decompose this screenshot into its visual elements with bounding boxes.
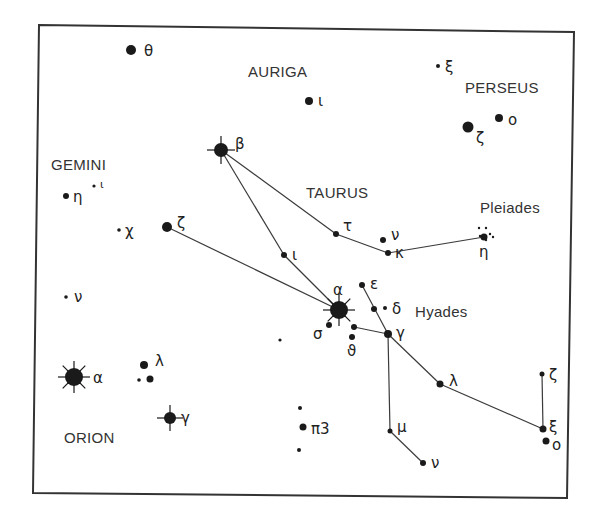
- star-dot-icon: [65, 368, 83, 386]
- star-label: ε: [370, 275, 378, 293]
- star-dot-icon: [388, 429, 393, 434]
- star-label: χ: [125, 222, 134, 240]
- constellation-label-perseus: PERSEUS: [465, 79, 539, 96]
- star-dot-icon: [137, 378, 141, 382]
- star-label: η: [73, 188, 83, 206]
- star-dot-icon: [330, 301, 348, 319]
- star-tau-sigma: σ: [313, 322, 332, 343]
- star-label: η: [479, 243, 489, 261]
- star-tau-gamma: γ: [384, 324, 405, 342]
- star-per-zeta: ζ: [463, 122, 485, 148]
- star-label: β: [235, 135, 245, 153]
- star-ori-pi-lower: [297, 448, 301, 452]
- star-dot-icon: [540, 372, 545, 377]
- star-label: θ: [144, 42, 153, 60]
- star-tau-tau: τ: [333, 217, 352, 237]
- constellation-line: [167, 227, 339, 310]
- star-tau-nu2: ν: [420, 454, 439, 472]
- star-ori-pi-upper: [298, 406, 302, 410]
- star-dot-icon: [436, 64, 440, 68]
- star-gem-theta: θ: [126, 42, 153, 60]
- star-dot-icon: [164, 412, 176, 424]
- star-dot-icon: [117, 228, 121, 232]
- star-label: κ: [395, 244, 404, 262]
- star-label: ι: [318, 92, 323, 110]
- star-label: ν: [431, 454, 439, 472]
- constellation-label-gemini: GEMINI: [51, 156, 106, 173]
- stars: θηιχζνβιξζoαιτνκηεδγσϑλμνζξoπ3αλγ: [58, 42, 561, 472]
- constellation-line: [336, 234, 388, 253]
- star-dot-icon: [64, 295, 68, 299]
- star-tau-kappa: κ: [385, 244, 404, 262]
- star-dot-icon: [300, 424, 307, 431]
- star-dot-icon: [63, 193, 69, 199]
- star-dot-icon: [437, 381, 444, 388]
- star-tau-delta1: [371, 306, 377, 312]
- star-label: τ: [343, 217, 352, 235]
- star-label: γ: [396, 324, 405, 342]
- star-ori-pi3: π3: [300, 420, 330, 438]
- star-ori-phi1: [137, 378, 141, 382]
- constellation-line: [542, 374, 543, 429]
- star-gem-nu: ν: [64, 288, 82, 306]
- star-label: γ: [181, 409, 190, 427]
- star-gem-iota: ι: [92, 178, 104, 191]
- star-dot-icon: [278, 338, 281, 341]
- star-dot-icon: [495, 114, 503, 122]
- star-dot-icon: [162, 222, 172, 232]
- star-aur-beta: β: [207, 135, 245, 164]
- star-ori-gamma: γ: [157, 405, 190, 431]
- star-label: σ: [313, 325, 323, 343]
- star-dot-icon: [297, 448, 301, 452]
- star-label: δ: [392, 300, 401, 318]
- star-ori-phi2: [147, 376, 154, 383]
- star-tau-xi: ξ: [540, 418, 558, 436]
- star-tau-delta: δ: [383, 300, 401, 318]
- star-dot-icon: [140, 361, 148, 369]
- pleiades-star-icon: [478, 227, 480, 229]
- star-label: ξ: [445, 58, 453, 76]
- cluster-label-hyades: Hyades: [415, 303, 468, 320]
- star-dot-icon: [305, 97, 313, 105]
- star-dot-icon: [543, 438, 550, 445]
- pleiades-star-icon: [479, 235, 481, 237]
- constellation-label-taurus: TAURUS: [306, 184, 368, 201]
- pleiades-star-icon: [492, 236, 494, 238]
- star-dot-icon: [333, 231, 339, 237]
- star-dot-icon: [92, 184, 95, 187]
- star-label: ι: [292, 246, 297, 264]
- star-dot-icon: [359, 282, 365, 288]
- constellation-line: [388, 334, 390, 431]
- star-gem-zeta: ζ: [162, 214, 185, 232]
- star-tau-nu: ν: [380, 226, 399, 244]
- star-label: α: [333, 281, 343, 299]
- star-dot-icon: [371, 306, 377, 312]
- star-label: μ: [397, 418, 407, 436]
- pleiades-star-icon: [489, 233, 491, 235]
- star-label: ν: [391, 226, 399, 244]
- star-ori-alpha: α: [58, 361, 103, 393]
- star-label: o: [552, 436, 561, 454]
- star-dot-icon: [281, 252, 287, 258]
- star-dot-icon: [349, 334, 355, 340]
- constellation-label-auriga: AURIGA: [248, 63, 307, 80]
- star-tau-alpha: α: [323, 281, 355, 326]
- constellation-label-orion: ORION: [64, 429, 115, 446]
- star-label: ζ: [177, 214, 185, 232]
- star-field-dot: [278, 338, 281, 341]
- star-dot-icon: [326, 322, 332, 328]
- star-tau-theta1: [351, 324, 357, 330]
- star-label: ζ: [549, 366, 557, 384]
- star-chart: θηιχζνβιξζoαιτνκηεδγσϑλμνζξoπ3αλγ AURIGA…: [0, 0, 601, 517]
- star-dot-icon: [351, 324, 357, 330]
- star-label: ζ: [476, 129, 484, 147]
- constellation-line: [354, 327, 388, 334]
- star-tau-omicron: o: [543, 436, 562, 454]
- star-tau-epsilon: ε: [359, 275, 378, 293]
- star-per-xi: ξ: [436, 58, 453, 76]
- star-aur-iota: ι: [305, 92, 323, 110]
- star-dot-icon: [383, 306, 387, 310]
- star-label: π3: [311, 420, 330, 438]
- constellation-line: [440, 384, 543, 429]
- star-tau-theta2: ϑ: [347, 334, 356, 360]
